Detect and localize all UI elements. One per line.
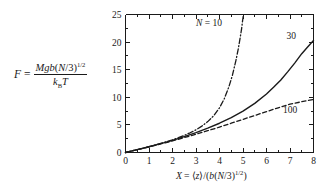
x-tick-label: 8	[311, 156, 316, 166]
y-tick-label: 5	[117, 120, 122, 130]
x-axis-ticks	[126, 15, 314, 153]
x-title-paren-close: )	[243, 170, 246, 181]
x-tick-label: 3	[194, 156, 199, 166]
y-tick-label: 10	[112, 93, 122, 103]
plot-area: 0510152025 012345678 N = 1030100 X=⟨z⟩/(…	[0, 0, 327, 193]
x-tick-label: 7	[288, 156, 293, 166]
curve-30	[126, 40, 314, 152]
y-tick-label: 0	[117, 148, 122, 158]
y-axis-tick-labels: 0510152025	[112, 10, 122, 158]
curve-label-100: 100	[283, 105, 298, 115]
data-curves	[126, 15, 314, 153]
plot-svg: 0510152025 012345678 N = 1030100	[0, 0, 327, 193]
x-tick-label: 6	[264, 156, 269, 166]
x-tick-label: 4	[217, 156, 222, 166]
x-axis-title: X=⟨z⟩/(b(N/3)1/2)	[176, 170, 247, 181]
curve-label-n-10: N = 10	[195, 18, 222, 28]
x-tick-label: 5	[241, 156, 246, 166]
curve-label-30: 30	[286, 31, 296, 41]
axis-frame	[126, 15, 314, 153]
x-title-equals: =	[182, 170, 192, 181]
y-tick-label: 20	[112, 38, 122, 48]
x-tick-label: 0	[123, 156, 128, 166]
y-axis-ticks	[126, 15, 314, 153]
curve-n-10	[126, 15, 244, 153]
x-title-slash-three: /3)	[224, 170, 235, 181]
x-axis-tick-labels: 012345678	[123, 156, 316, 166]
x-tick-label: 2	[170, 156, 175, 166]
figure-container: F = Mgb(N/3)1/2 kBT 0510152025 012345678…	[0, 0, 327, 193]
y-tick-label: 25	[112, 10, 122, 20]
curve-labels: N = 1030100	[195, 18, 297, 116]
x-tick-label: 1	[147, 156, 152, 166]
y-tick-label: 15	[112, 65, 122, 75]
